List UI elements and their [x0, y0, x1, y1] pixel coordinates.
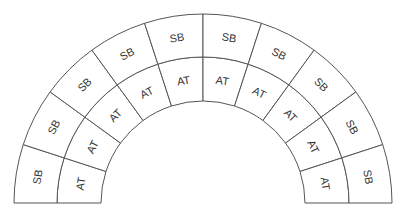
- outer-ring-label: SB: [30, 169, 44, 185]
- outer-ring-label: SB: [169, 30, 185, 44]
- inner-ring-label: AT: [319, 176, 333, 191]
- inner-ring-label: AT: [74, 176, 88, 191]
- inner-ring-label: AT: [176, 74, 191, 88]
- outer-ring-label: SB: [221, 30, 237, 44]
- inner-ring-label: AT: [215, 74, 230, 88]
- outer-ring-label: SB: [361, 169, 375, 185]
- semicircular-ring-diagram: ATATATATATATATATATATSBSBSBSBSBSBSBSBSBSB: [0, 0, 406, 220]
